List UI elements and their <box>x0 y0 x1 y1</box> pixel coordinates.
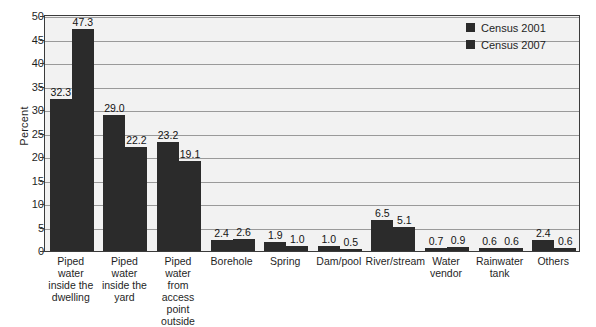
x-axis-category-label-line: Dam/pool <box>312 255 366 267</box>
x-axis-category-label-line: dwelling <box>44 291 98 303</box>
x-axis-category-label-line: Water <box>419 255 473 267</box>
x-axis-category-label: Dam/pool <box>312 255 366 267</box>
bar-group: 1.91.0 <box>264 16 308 251</box>
x-axis-category-label-line: Others <box>526 255 580 267</box>
x-axis-category-label-line: tank <box>473 267 527 279</box>
bar-group: 32.347.3 <box>50 16 94 251</box>
legend-swatch-icon <box>466 23 475 32</box>
x-axis-category-label-line: Borehole <box>205 255 259 267</box>
x-axis-category-label-line: vendor <box>419 267 473 279</box>
x-axis-category-label: Spring <box>258 255 312 267</box>
bar <box>125 147 147 251</box>
bar <box>501 248 523 251</box>
legend-item[interactable]: Census 2001 <box>466 20 546 35</box>
bar-group: 6.55.1 <box>371 16 415 251</box>
bar-group: 2.42.6 <box>211 16 255 251</box>
x-axis-category-label: Piped waterinside theyard <box>98 255 152 303</box>
chart-legend: Census 2001Census 2007 <box>466 20 546 54</box>
legend-label: Census 2007 <box>481 39 546 51</box>
bar <box>233 239 255 251</box>
x-axis-category-label: Borehole <box>205 255 259 267</box>
legend-label: Census 2001 <box>481 22 546 34</box>
bar-value-label: 2.6 <box>229 226 259 238</box>
bar <box>286 246 308 251</box>
x-axis-category-label-line: Rainwater <box>473 255 527 267</box>
x-axis-category-label: River/stream <box>366 255 420 267</box>
x-axis-category-label-line: inside the <box>44 279 98 291</box>
x-axis-category-label: Others <box>526 255 580 267</box>
x-axis-category-label: Piped waterfrom accesspoint outside <box>151 255 205 327</box>
bar <box>211 240 233 251</box>
bar-value-label: 1.0 <box>282 233 312 245</box>
legend-swatch-icon <box>466 40 475 49</box>
bar <box>554 248 576 251</box>
bar-group: 29.022.2 <box>103 16 147 251</box>
x-axis-category-label: Piped waterinside thedwelling <box>44 255 98 303</box>
x-axis-category-label-line: Piped water <box>151 255 205 279</box>
bar-value-label: 0.6 <box>550 235 580 247</box>
bar-value-label: 19.1 <box>175 148 205 160</box>
bar-value-label: 0.6 <box>497 235 527 247</box>
legend-item[interactable]: Census 2007 <box>466 37 546 52</box>
bar <box>50 99 72 251</box>
x-axis-category-label-line: Piped water <box>44 255 98 279</box>
bar <box>72 29 94 251</box>
x-axis-category-label: Rainwatertank <box>473 255 527 279</box>
x-axis-category-label-line: inside the <box>98 279 152 291</box>
bar-value-label: 0.9 <box>443 234 473 246</box>
x-axis-category-labels: Piped waterinside thedwellingPiped water… <box>44 255 580 297</box>
x-axis-category-label: Watervendor <box>419 255 473 279</box>
x-axis-category-label-line: Piped water <box>98 255 152 279</box>
x-axis-category-label-line: Spring <box>258 255 312 267</box>
bar-value-label: 22.2 <box>121 134 151 146</box>
bar-value-label: 47.3 <box>68 16 98 28</box>
bar <box>393 227 415 251</box>
x-axis-category-label-line: point outside <box>151 303 205 327</box>
bar-group: 1.00.5 <box>318 16 362 251</box>
x-axis-category-label-line: River/stream <box>366 255 420 267</box>
bar <box>447 247 469 251</box>
bar-value-label: 23.2 <box>153 129 183 141</box>
bar <box>425 248 447 251</box>
bar-value-label: 0.5 <box>336 236 366 248</box>
bar <box>340 249 362 251</box>
bar-value-label: 29.0 <box>99 102 129 114</box>
x-axis-category-label-line: yard <box>98 291 152 303</box>
bar-value-label: 5.1 <box>389 214 419 226</box>
bar <box>479 248 501 251</box>
bar-group: 0.70.9 <box>425 16 469 251</box>
x-axis-category-label-line: from access <box>151 279 205 303</box>
bar-group: 23.219.1 <box>157 16 201 251</box>
bar <box>179 161 201 251</box>
